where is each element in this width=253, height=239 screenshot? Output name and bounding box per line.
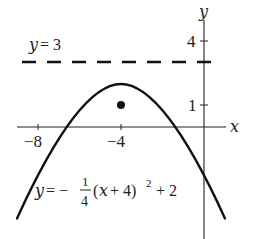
equation-x: x [99, 181, 108, 200]
equation-fraction-denominator: 4 [81, 194, 88, 209]
focus-point [117, 101, 125, 109]
equation-exponent: 2 [146, 177, 152, 189]
parabola-equation: y = − 1 4 ( x + 4) 2 + 2 [34, 174, 177, 209]
equation-equals-minus: = − [46, 182, 68, 199]
y-axis-label: y [198, 2, 209, 21]
chart-canvas: y x −8 −4 4 1 y = 3 y = − 1 4 ( x + 4) 2… [0, 0, 253, 239]
x-tick-label-neg4: −4 [107, 132, 126, 151]
directrix-label-y: y [28, 35, 39, 54]
parabola-chart: y x −8 −4 4 1 y = 3 y = − 1 4 ( x + 4) 2… [0, 0, 253, 239]
y-tick-label-4: 4 [187, 32, 196, 51]
x-axis-label: x [230, 117, 239, 136]
directrix-label: y = 3 [28, 35, 61, 54]
equation-open-paren: ( [93, 182, 98, 200]
y-tick-label-1: 1 [188, 96, 197, 115]
x-tick-label-neg8: −8 [24, 132, 42, 151]
directrix-label-eq: = 3 [40, 36, 61, 53]
equation-plus-4: + 4) [110, 182, 136, 200]
equation-plus-2: + 2 [156, 182, 177, 199]
equation-y: y [34, 181, 45, 200]
equation-fraction-numerator: 1 [82, 174, 89, 189]
